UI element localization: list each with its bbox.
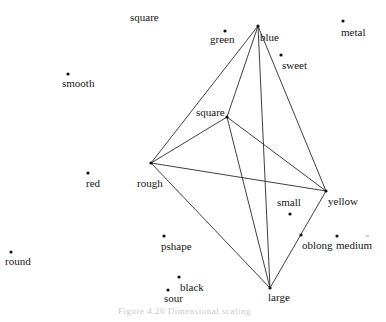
point-marker-icon [335, 234, 338, 237]
node-small: small [277, 196, 301, 216]
point-marker-icon [177, 275, 180, 278]
node-yellow: yellow [324, 189, 358, 207]
node-metal: metal [341, 19, 365, 38]
multidimensional-scaling-diagram: bluegreenmetalsweetsquaresmoothsquarerou… [0, 0, 386, 322]
node-square-top: square [130, 11, 159, 23]
node-label: yellow [328, 195, 358, 207]
node-sweet: sweet [279, 53, 307, 71]
node-black: black [177, 275, 204, 293]
point-marker-icon [162, 234, 165, 237]
node-label: oblong [302, 239, 333, 251]
node-label: medium [336, 239, 372, 251]
edge-rough-yellow [151, 163, 326, 191]
point-marker-icon [341, 19, 344, 22]
node-blue: blue [256, 24, 279, 43]
node-large: large [268, 286, 290, 303]
point-marker-icon [86, 171, 89, 174]
node-square: square [196, 106, 229, 119]
node-label: pshape [161, 240, 192, 252]
point-marker-icon [9, 250, 12, 253]
node-red: red [86, 171, 101, 189]
edge-blue-yellow [258, 26, 326, 191]
node-label: smooth [62, 77, 95, 89]
node-label: sour [164, 292, 183, 304]
node-label: small [277, 196, 301, 208]
point-marker-icon [268, 286, 271, 289]
node-label: red [86, 177, 101, 189]
node-round: round [5, 250, 31, 267]
node-label: blue [260, 31, 279, 43]
edge-rough-large [151, 163, 270, 288]
node-label: green [210, 33, 235, 45]
point-marker-icon [66, 72, 69, 75]
point-marker-icon [279, 53, 282, 56]
point-marker-icon [225, 115, 228, 118]
node-label: sweet [282, 59, 307, 71]
node-oblong: oblong [299, 233, 333, 251]
point-marker-icon [324, 189, 327, 192]
node-label: square [130, 11, 159, 23]
edge-rough-square [151, 117, 227, 163]
node-label: black [180, 281, 204, 293]
node-label: large [268, 291, 290, 303]
node-label: round [5, 255, 31, 267]
node-smooth: smooth [62, 72, 95, 89]
node-rough: rough [137, 161, 163, 189]
node-medium: medium [335, 234, 372, 251]
point-marker-icon [149, 161, 152, 164]
edge-rough-blue [151, 26, 258, 163]
figure-caption: Figure 4.26 Dimensional scaling [118, 306, 251, 316]
node-label: rough [137, 177, 163, 189]
point-marker-icon [256, 24, 259, 27]
node-label: metal [341, 26, 365, 38]
nodes: bluegreenmetalsweetsquaresmoothsquarerou… [5, 11, 372, 304]
point-marker-icon [299, 233, 302, 236]
node-label: square [196, 106, 225, 118]
node-green: green [210, 29, 235, 45]
node-pshape: pshape [161, 234, 192, 252]
point-marker-icon [288, 212, 291, 215]
